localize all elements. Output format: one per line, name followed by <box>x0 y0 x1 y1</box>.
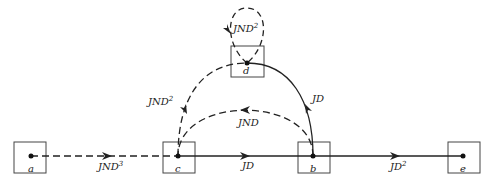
node-label-d: d <box>243 65 249 76</box>
edge-label-b-e: JD2 <box>390 160 407 172</box>
node-label-b: b <box>310 163 316 174</box>
edge-label-c-b: JD <box>242 160 254 171</box>
edge-label-d-d: JND2 <box>233 22 258 34</box>
node-label-c: c <box>175 163 181 174</box>
edge-d-d <box>231 8 264 63</box>
node-label-a: a <box>28 163 34 174</box>
node-label-e: e <box>460 163 466 174</box>
edge-label-d-b: JD <box>312 93 324 104</box>
edge-label-a-c: JND3 <box>98 160 123 172</box>
edge-label-c-d: JND2 <box>148 95 173 107</box>
edge-label-b-c: JND <box>238 117 259 128</box>
